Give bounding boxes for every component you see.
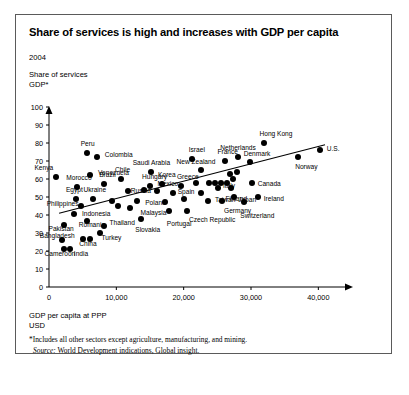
source-text: World Development indications, Global in…: [56, 346, 200, 355]
y-tick-label: 40: [35, 211, 43, 220]
data-point: [224, 180, 230, 186]
point-label: Hong Kong: [259, 130, 292, 137]
x-tick-label: 10,000: [96, 293, 136, 302]
point-label: Israel: [189, 146, 205, 153]
point-label: Egypt: [66, 186, 83, 193]
scatter-plot: 0102030405060708090100010,00020,00030,00…: [16, 15, 393, 355]
point-label: New Zealand: [177, 158, 216, 165]
y-tick-label: 80: [35, 139, 43, 148]
point-label: Denmark: [244, 150, 271, 157]
data-point: [198, 167, 204, 173]
data-point: [255, 194, 261, 200]
source-word: Source:: [33, 346, 56, 355]
point-label: Malaysia: [140, 209, 166, 216]
data-point: [218, 180, 224, 186]
point-label: Ukraine: [83, 186, 106, 193]
point-label: Brazil: [99, 171, 116, 178]
y-tick-label: 100: [31, 103, 43, 112]
y-tick-label: 10: [35, 265, 43, 274]
data-point: [134, 198, 140, 204]
data-point: [234, 169, 240, 175]
data-point: [215, 185, 221, 191]
data-point: [115, 203, 121, 209]
x-axis-caption-line2: USD: [29, 321, 107, 331]
point-label: Morocco: [66, 174, 91, 181]
point-label: Canada: [258, 180, 281, 187]
data-point: [247, 159, 253, 165]
footnote: *Includes all other sectors except agric…: [29, 335, 247, 344]
point-label: U.S.: [327, 145, 340, 152]
data-point: [71, 211, 77, 217]
point-label: Portugal: [167, 220, 192, 227]
data-point: [118, 176, 124, 182]
point-label: Chile: [115, 166, 130, 173]
point-label: Saudi Arabia: [133, 159, 170, 166]
point-label: India: [74, 250, 88, 257]
point-label: Ireland: [264, 195, 284, 202]
point-label: Korea: [158, 171, 176, 178]
point-label: Indonesia: [82, 210, 111, 217]
point-label: Colombia: [105, 151, 133, 158]
x-tick-label: 40,000: [298, 293, 338, 302]
y-tick-label: 0: [39, 283, 43, 292]
data-point: [227, 171, 233, 177]
data-point: [219, 198, 225, 204]
data-point: [230, 176, 236, 182]
point-label: Turkey: [102, 234, 122, 241]
data-point: [249, 180, 255, 186]
data-point: [205, 198, 211, 204]
point-label: Switzerland: [240, 212, 274, 219]
y-tick-label: 20: [35, 247, 43, 256]
exhibit-panel: Share of services is high and increases …: [15, 14, 392, 354]
point-label: Bangladesh: [40, 232, 75, 239]
x-axis-caption: GDP per capita at PPP USD: [29, 311, 107, 330]
data-point: [212, 180, 218, 186]
data-point: [101, 223, 107, 229]
data-point: [148, 169, 154, 175]
data-point: [317, 147, 323, 153]
y-tick-label: 60: [35, 175, 43, 184]
point-label: Kenya: [34, 164, 53, 171]
data-point: [84, 150, 90, 156]
data-point: [138, 216, 144, 222]
data-point: [181, 196, 187, 202]
point-label: Slovakia: [135, 226, 160, 233]
x-tick-label: 20,000: [164, 293, 204, 302]
data-point: [109, 198, 115, 204]
data-point: [141, 187, 147, 193]
source-line: Source: World Development indications, G…: [33, 346, 199, 355]
y-tick-label: 50: [35, 193, 43, 202]
x-tick-label: 0: [29, 293, 69, 302]
point-label: Philippines: [47, 200, 79, 207]
point-label: Peru: [81, 140, 95, 147]
point-label: Spain: [178, 188, 195, 195]
point-label: Norway: [295, 163, 317, 170]
x-tick-label: 30,000: [231, 293, 271, 302]
point-label: Thailand: [110, 219, 135, 226]
point-label: Czech Republic: [189, 216, 235, 223]
point-label: Pakistan: [48, 225, 73, 232]
y-tick-label: 90: [35, 121, 43, 130]
x-axis-caption-line1: GDP per capita at PPP: [29, 311, 107, 321]
